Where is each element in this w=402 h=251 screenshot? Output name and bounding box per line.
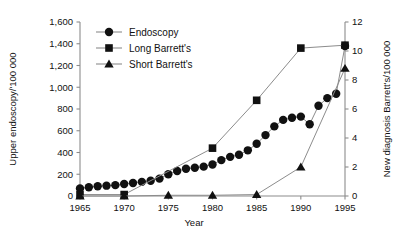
datapoint-endoscopy	[314, 102, 322, 110]
x-tick-label: 1975	[158, 202, 179, 213]
legend-label-endoscopy: Endoscopy	[129, 27, 178, 38]
legend-marker-square	[105, 44, 113, 52]
datapoint-endoscopy	[93, 182, 101, 190]
x-axis-title: Year	[184, 217, 203, 228]
datapoint-long-barrett-s	[297, 44, 305, 52]
y-tick-label-left: 200	[57, 169, 73, 180]
y-tick-label-right: 6	[352, 103, 357, 114]
x-tick-label: 1985	[246, 202, 267, 213]
y-tick-label-right: 8	[352, 74, 357, 85]
legend-marker-triangle	[104, 60, 113, 68]
datapoint-long-barrett-s	[253, 97, 261, 105]
datapoint-endoscopy	[252, 140, 260, 148]
y-tick-label-left: 400	[57, 147, 73, 158]
datapoint-endoscopy	[120, 180, 128, 188]
datapoint-endoscopy	[85, 183, 93, 191]
y-tick-label-left: 1,400	[49, 38, 73, 49]
y-tick-label-left: 0	[68, 190, 73, 201]
legend-marker-circle	[105, 28, 113, 36]
datapoint-short-barrett-s	[296, 163, 305, 171]
datapoint-short-barrett-s	[208, 191, 217, 199]
datapoint-endoscopy	[191, 164, 199, 172]
datapoint-endoscopy	[244, 146, 252, 154]
y-tick-label-left: 1,200	[49, 60, 73, 71]
chart-figure: 02004006008001,0001,2001,4001,6000246810…	[0, 0, 402, 251]
y-tick-label-right: 10	[352, 45, 363, 56]
x-tick-label: 1990	[290, 202, 311, 213]
legend-label-short-barrett-s: Short Barrett's	[129, 59, 193, 70]
y-axis-title-left: Upper endoscopy/'100 000	[7, 52, 18, 165]
datapoint-endoscopy	[199, 162, 207, 170]
datapoint-endoscopy	[102, 181, 110, 189]
x-tick-label: 1965	[69, 202, 90, 213]
datapoint-short-barrett-s	[252, 190, 261, 198]
y-tick-label-left: 800	[57, 103, 73, 114]
datapoint-long-barrett-s	[341, 41, 349, 49]
datapoint-endoscopy	[182, 165, 190, 173]
datapoint-endoscopy	[208, 160, 216, 168]
datapoint-endoscopy	[297, 112, 305, 120]
y-axis-title-right: New diagnosis Barrett's/100 000	[381, 41, 392, 177]
datapoint-endoscopy	[261, 131, 269, 139]
legend-label-long-barrett-s: Long Barrett's	[129, 43, 191, 54]
datapoint-long-barrett-s	[209, 144, 217, 152]
datapoint-endoscopy	[270, 122, 278, 130]
y-tick-label-right: 12	[352, 16, 363, 27]
datapoint-endoscopy	[111, 181, 119, 189]
datapoint-endoscopy	[305, 120, 313, 128]
datapoint-endoscopy	[235, 150, 243, 158]
datapoint-endoscopy	[279, 116, 287, 124]
series-line-short-barrett-s	[80, 68, 345, 196]
chart-canvas: 02004006008001,0001,2001,4001,6000246810…	[0, 0, 402, 251]
datapoint-endoscopy	[129, 179, 137, 187]
datapoint-short-barrett-s	[164, 191, 173, 199]
x-tick-label: 1970	[114, 202, 135, 213]
y-tick-label-left: 1,600	[49, 16, 73, 27]
y-tick-label-right: 4	[352, 132, 357, 143]
x-tick-label: 1980	[202, 202, 223, 213]
y-tick-label-left: 600	[57, 125, 73, 136]
datapoint-endoscopy	[217, 156, 225, 164]
datapoint-endoscopy	[226, 153, 234, 161]
datapoint-endoscopy	[288, 114, 296, 122]
y-tick-label-right: 0	[352, 190, 357, 201]
y-tick-label-right: 2	[352, 161, 357, 172]
x-tick-label: 1995	[334, 202, 355, 213]
y-tick-label-left: 1,000	[49, 82, 73, 93]
